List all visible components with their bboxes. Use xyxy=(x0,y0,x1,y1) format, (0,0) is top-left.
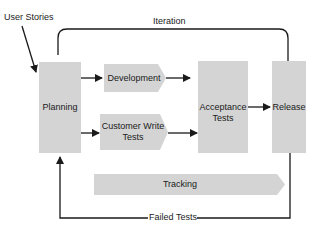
user-stories-label: User Stories xyxy=(4,12,54,23)
customer-write-tests-label-line2: Tests xyxy=(100,132,166,143)
acceptance-tests-label-line1: Acceptance xyxy=(196,102,250,113)
tracking-label: Tracking xyxy=(150,179,210,190)
acceptance-tests-label-line2: Tests xyxy=(196,113,250,124)
failed-tests-label: Failed Tests xyxy=(147,212,199,223)
user-stories-arrow xyxy=(22,26,36,72)
iteration-loop-line xyxy=(58,29,288,61)
release-label: Release xyxy=(270,102,308,113)
flow-diagram xyxy=(0,0,319,231)
planning-label: Planning xyxy=(39,102,81,113)
customer-write-tests-label-line1: Customer Write xyxy=(100,121,166,132)
development-label: Development xyxy=(104,73,164,84)
iteration-label: Iteration xyxy=(153,16,186,27)
